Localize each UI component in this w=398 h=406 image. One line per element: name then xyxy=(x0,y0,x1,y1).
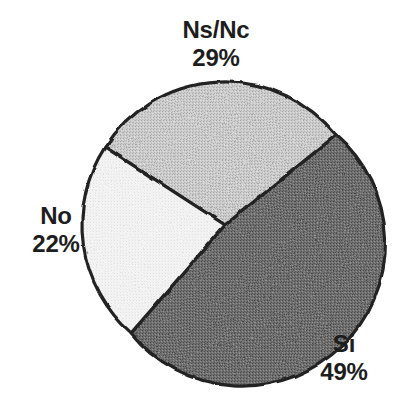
pie-chart: Ns/Nc 29% No 22% Si 49% xyxy=(0,0,398,406)
pie-label-nsnc: Ns/Nc 29% xyxy=(160,16,272,72)
pie-label-no: No 22% xyxy=(8,202,104,258)
pie-label-si: Si 49% xyxy=(296,330,392,386)
pie-label-nsnc-value: 29% xyxy=(160,44,272,72)
pie-label-si-name: Si xyxy=(296,330,392,358)
pie-label-si-value: 49% xyxy=(296,358,392,386)
pie-label-no-name: No xyxy=(8,202,104,230)
pie-label-nsnc-name: Ns/Nc xyxy=(160,16,272,44)
pie-label-no-value: 22% xyxy=(8,230,104,258)
